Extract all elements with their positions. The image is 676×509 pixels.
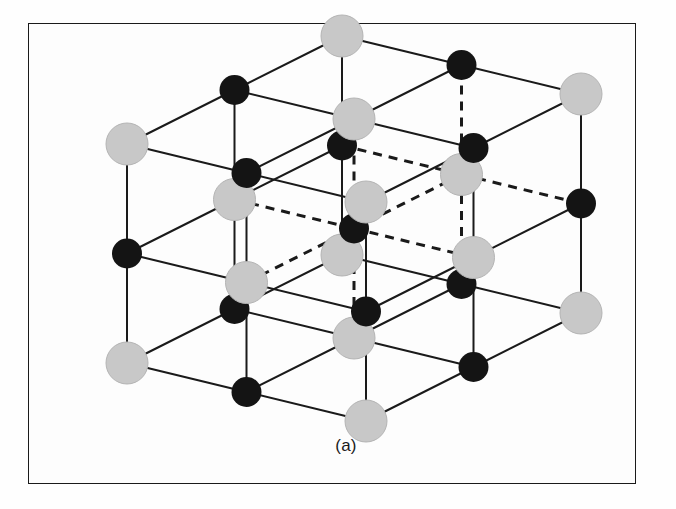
- atom-dark: [351, 297, 381, 327]
- atom-light: [226, 262, 268, 304]
- atom-dark: [447, 50, 477, 80]
- atom-dark: [459, 133, 489, 163]
- atom-light: [345, 181, 387, 223]
- atom-light: [560, 73, 602, 115]
- atom-dark: [459, 352, 489, 382]
- atom-dark: [566, 189, 596, 219]
- atom-light: [106, 123, 148, 165]
- atom-light: [106, 342, 148, 384]
- atom-light: [333, 98, 375, 140]
- atom-dark: [232, 377, 262, 407]
- figure-canvas: (a): [0, 0, 676, 509]
- atom-group: [106, 15, 602, 442]
- atom-light: [321, 15, 363, 57]
- atom-dark: [220, 75, 250, 105]
- atom-dark: [232, 158, 262, 188]
- figure-caption: (a): [316, 436, 376, 456]
- atom-light: [560, 292, 602, 334]
- bond-group-hidden: [235, 65, 582, 338]
- crystal-structure-drawing: [0, 0, 676, 509]
- atom-dark: [112, 239, 142, 269]
- atom-light: [453, 237, 495, 279]
